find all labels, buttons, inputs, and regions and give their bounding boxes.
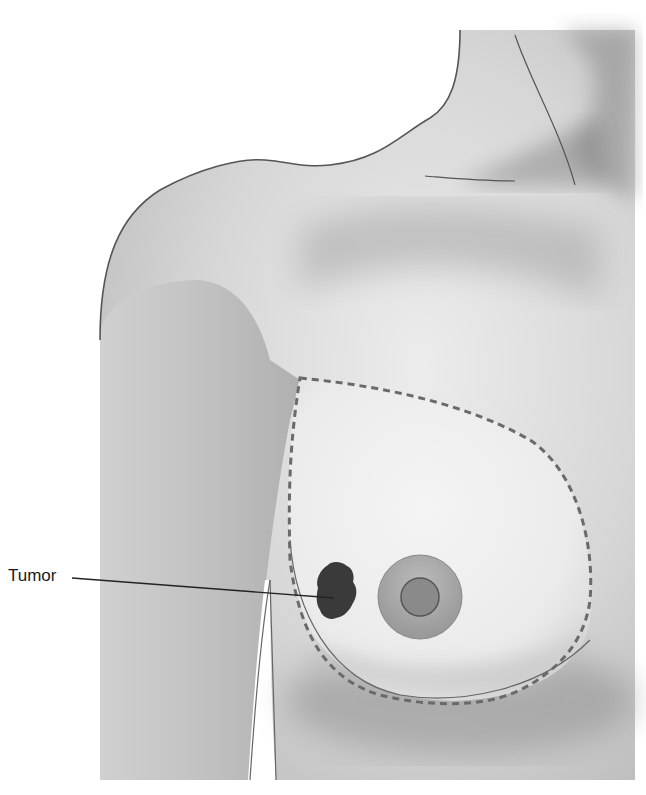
chest-illustration [0, 0, 646, 795]
nipple [401, 578, 439, 616]
tumor-label: Tumor [8, 566, 57, 586]
